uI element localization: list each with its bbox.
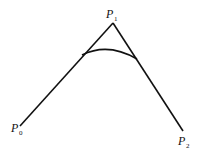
label-p1-base: P bbox=[105, 7, 114, 21]
label-p1: P 1 bbox=[105, 7, 118, 23]
bezier-diagram: P 1 P 0 P 2 bbox=[0, 0, 199, 158]
edge-p1-p2 bbox=[113, 23, 183, 131]
label-p0: P 0 bbox=[10, 121, 23, 137]
label-p0-base: P bbox=[10, 121, 19, 135]
label-p2: P 2 bbox=[177, 134, 190, 150]
label-p2-base: P bbox=[177, 134, 186, 148]
label-p2-sub: 2 bbox=[186, 142, 190, 150]
label-p1-sub: 1 bbox=[114, 15, 118, 23]
curve-arc bbox=[82, 49, 137, 59]
label-p0-sub: 0 bbox=[19, 129, 23, 137]
edge-p0-p1 bbox=[20, 23, 113, 126]
